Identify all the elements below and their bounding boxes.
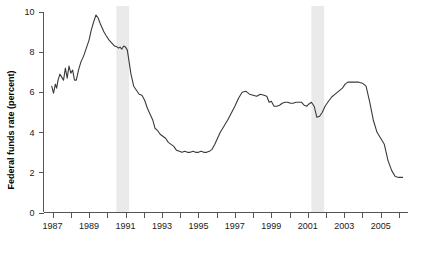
- y-tick-label: 6: [29, 87, 34, 97]
- x-tick-label: 2003: [334, 221, 354, 231]
- x-tick-label: 1991: [115, 221, 135, 231]
- y-tick-label: 4: [29, 128, 34, 138]
- y-tick-label: 2: [29, 168, 34, 178]
- x-tick-label: 1999: [261, 221, 281, 231]
- federal-funds-rate-line-chart: 0246810 19871989199119931995199719992001…: [0, 0, 424, 254]
- x-tick-label: 2001: [298, 221, 318, 231]
- chart-background: [0, 0, 424, 254]
- x-tick-label: 1995: [188, 221, 208, 231]
- x-tick-label: 1987: [43, 221, 63, 231]
- y-tick-label: 0: [29, 208, 34, 218]
- x-tick-label: 1989: [79, 221, 99, 231]
- y-axis-title: Federal funds rate (percent): [6, 70, 16, 189]
- recession-band-1990: [116, 6, 129, 213]
- y-tick-label: 8: [29, 47, 34, 57]
- recession-band-2001: [311, 6, 324, 213]
- y-tick-label: 10: [24, 7, 34, 17]
- x-tick-label: 1997: [225, 221, 245, 231]
- x-tick-label: 2005: [371, 221, 391, 231]
- x-tick-label: 1993: [152, 221, 172, 231]
- chart-container: 0246810 19871989199119931995199719992001…: [0, 0, 424, 254]
